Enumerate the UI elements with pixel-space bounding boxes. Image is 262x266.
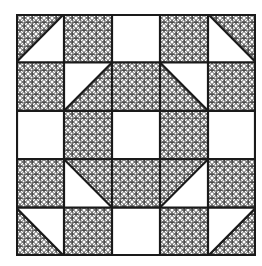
quilt-cell-r1-c0 (16, 62, 64, 110)
quilt-cell-r3-c1 (64, 159, 112, 207)
patterned-square (64, 14, 112, 62)
quilt-cell-r1-c1 (64, 62, 112, 110)
quilt-cell-r0-c3 (160, 14, 208, 62)
quilt-cell-r2-c0 (16, 111, 64, 159)
quilt-cell-r4-c2 (112, 208, 160, 256)
quilt-cell-r3-c3 (160, 159, 208, 207)
patterned-square (112, 159, 160, 207)
quilt-cell-r1-c4 (208, 62, 256, 110)
quilt-cell-r4-c1 (64, 208, 112, 256)
quilt-cells (16, 14, 256, 256)
patterned-square (16, 62, 64, 110)
quilt-block-drawing (16, 14, 256, 256)
patterned-square (208, 159, 256, 207)
quilt-block (16, 14, 256, 256)
patterned-square (160, 208, 208, 256)
quilt-cell-r2-c3 (160, 111, 208, 159)
quilt-cell-r2-c1 (64, 111, 112, 159)
quilt-cell-r3-c0 (16, 159, 64, 207)
quilt-cell-r1-c3 (160, 62, 208, 110)
quilt-cell-r0-c0 (16, 14, 64, 62)
quilt-cell-r4-c4 (208, 208, 256, 256)
patterned-square (16, 159, 64, 207)
quilt-cell-r0-c1 (64, 14, 112, 62)
patterned-square (64, 208, 112, 256)
quilt-cell-r0-c2 (112, 14, 160, 62)
quilt-cell-r3-c2 (112, 159, 160, 207)
quilt-cell-r3-c4 (208, 159, 256, 207)
patterned-square (160, 111, 208, 159)
quilt-cell-r2-c2 (112, 111, 160, 159)
quilt-cell-r0-c4 (208, 14, 256, 62)
patterned-square (160, 14, 208, 62)
quilt-cell-r2-c4 (208, 111, 256, 159)
quilt-cell-r4-c3 (160, 208, 208, 256)
quilt-cell-r1-c2 (112, 62, 160, 110)
quilt-cell-r4-c0 (16, 208, 64, 256)
patterned-square (208, 62, 256, 110)
patterned-square (64, 111, 112, 159)
patterned-square (112, 62, 160, 110)
